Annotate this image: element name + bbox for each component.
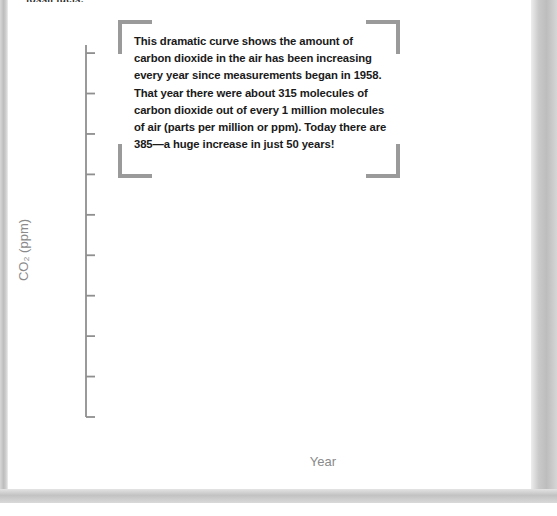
y-axis [86, 45, 95, 417]
callout-text: This dramatic curve shows the amount of … [134, 33, 392, 153]
y-axis-label: CO₂ (ppm) [16, 219, 31, 281]
callout-annotation-box: This dramatic curve shows the amount of … [118, 20, 400, 178]
book-page: fossil fuels. CO₂ (ppm) Year This dramat… [0, 0, 557, 516]
x-axis-label: Year [310, 454, 337, 469]
